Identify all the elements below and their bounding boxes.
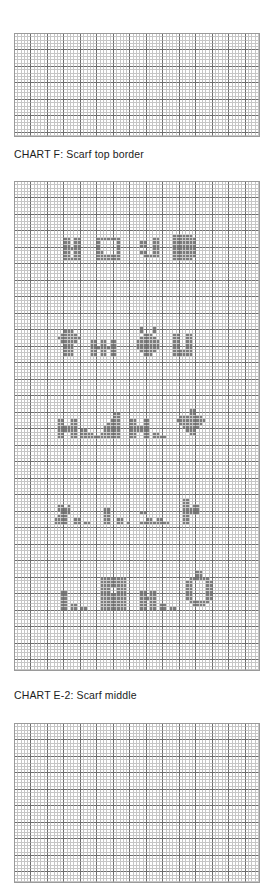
chart-e2-grid-cells	[15, 182, 259, 670]
chart-bottom-grid-cells	[15, 724, 259, 882]
chart-f-grid-cells	[15, 34, 259, 136]
grid-cell	[256, 667, 259, 670]
chart-f-caption: CHART F: Scarf top border	[14, 148, 144, 161]
pattern-page: CHART F: Scarf top border CHART E-2: Sca…	[0, 0, 277, 885]
chart-f-grid[interactable]	[14, 33, 260, 137]
chart-bottom-grid[interactable]	[14, 723, 260, 883]
chart-f-block	[14, 33, 260, 137]
grid-cell	[256, 133, 259, 136]
chart-e2-caption: CHART E-2: Scarf middle	[14, 689, 137, 702]
chart-e2-block	[14, 181, 260, 671]
chart-bottom-block	[14, 723, 260, 883]
chart-e2-grid[interactable]	[14, 181, 260, 671]
grid-cell	[256, 879, 259, 882]
